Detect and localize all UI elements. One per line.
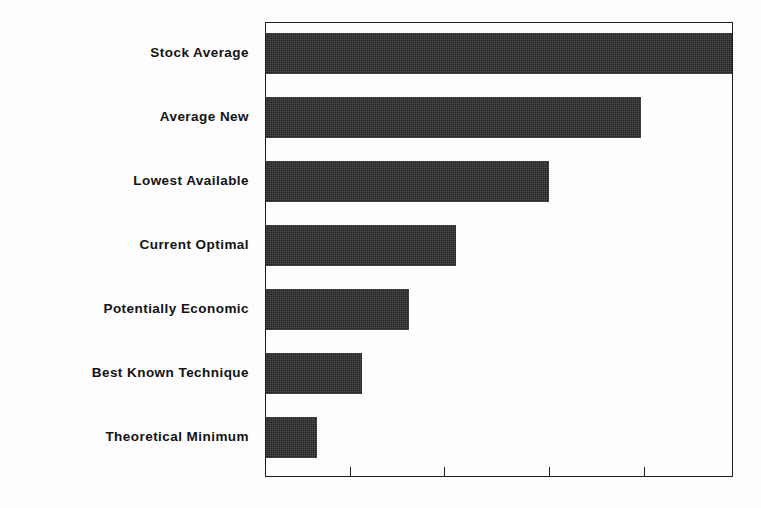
bar-theoretical-minimum	[266, 417, 317, 458]
x-axis-tick-2	[444, 467, 445, 476]
category-label-theoretical-minimum: Theoretical Minimum	[0, 430, 249, 444]
bar-current-optimal	[266, 225, 456, 266]
plot-inner	[266, 23, 732, 476]
category-label-potentially-economic: Potentially Economic	[0, 302, 249, 316]
bar-lowest-available	[266, 161, 549, 202]
category-label-stock-average: Stock Average	[0, 46, 249, 60]
x-axis-tick-4	[644, 467, 645, 476]
bar-average-new	[266, 97, 641, 138]
category-label-best-known-technique: Best Known Technique	[0, 366, 249, 380]
x-axis-tick-3	[549, 467, 550, 476]
category-label-column: Stock Average Average New Lowest Availab…	[0, 0, 249, 508]
bar-stock-average	[266, 33, 732, 74]
category-label-average-new: Average New	[0, 110, 249, 124]
x-axis-tick-1	[350, 467, 351, 476]
bar-potentially-economic	[266, 289, 409, 330]
bar-best-known-technique	[266, 353, 362, 394]
category-label-current-optimal: Current Optimal	[0, 238, 249, 252]
bar-chart: Stock Average Average New Lowest Availab…	[0, 0, 761, 508]
category-label-lowest-available: Lowest Available	[0, 174, 249, 188]
plot-area	[265, 22, 733, 477]
